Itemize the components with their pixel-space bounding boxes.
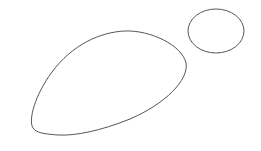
large-blob-shape [31,31,186,135]
drawing-canvas [0,0,261,151]
small-ellipse-shape [188,9,244,53]
